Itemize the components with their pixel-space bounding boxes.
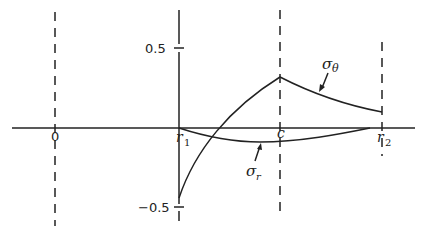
y-tick-label-neg-0.5: −0.5 [138,200,170,215]
origin-label: 0 [51,129,59,144]
sigma-r-subscript: r [256,171,262,182]
c-label: c [277,125,285,141]
y-tick-label-0.5: 0.5 [145,41,166,56]
r1-subscript: 1 [184,137,190,148]
sigma-theta-subscript: θ [332,62,339,75]
r1-label: r [176,129,184,145]
r2-label: r [377,129,385,145]
r2-subscript: 2 [385,137,391,148]
